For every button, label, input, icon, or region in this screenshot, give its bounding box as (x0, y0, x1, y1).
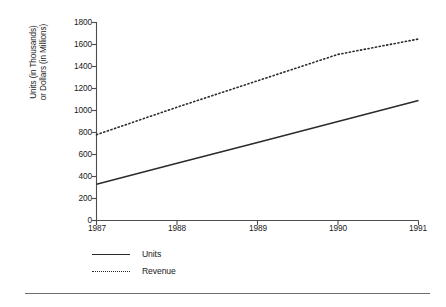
x-tick-label: 1987 (72, 224, 122, 233)
x-tick-label: 1988 (152, 224, 202, 233)
line-chart-figure: Units (in Thousands) or Dollars (in Mill… (0, 0, 446, 307)
legend-item-units: Units (92, 247, 272, 264)
x-tick-label: 1989 (233, 224, 283, 233)
x-tick-label: 1990 (313, 224, 363, 233)
legend-item-revenue: Revenue (92, 264, 272, 281)
legend-label-units: Units (142, 247, 161, 262)
x-tick-label: 1991 (393, 224, 443, 233)
legend-swatch-dotted-line-icon (92, 271, 130, 274)
legend-swatch-solid-line-icon (92, 254, 130, 257)
chart-legend: Units Revenue (92, 247, 272, 281)
bottom-divider-rule (25, 293, 430, 294)
legend-label-revenue: Revenue (142, 264, 176, 279)
